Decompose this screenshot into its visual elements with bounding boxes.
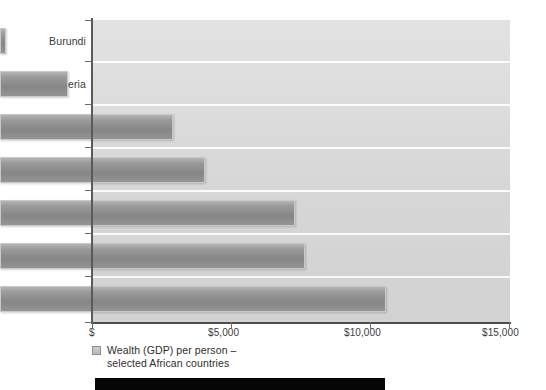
band-separator [92,233,510,235]
band-separator [92,276,510,278]
chart-figure: Burundi Nigeria Egypt Algeria South Afri… [0,0,546,390]
y-axis-tick [85,61,92,62]
x-axis-tick [509,322,510,329]
bar-nigeria[interactable] [0,71,68,97]
x-axis-tick [92,322,93,329]
y-axis-tick [85,20,92,21]
bar-south-africa[interactable] [0,200,295,226]
x-axis-line [91,322,511,324]
y-axis-tick [85,147,92,148]
band-separator [92,147,510,149]
bar-libya[interactable] [0,286,386,312]
x-axis-tick [231,322,232,329]
x-axis-tick-label: $5,000 [208,327,239,338]
chart-legend: Wealth (GDP) per person – selected Afric… [92,344,237,370]
y-axis-line [91,18,93,324]
bottom-caption-bar [95,378,385,390]
category-label: Burundi [2,35,86,47]
y-axis-tick [85,322,92,323]
x-axis-tick-label: $15,000 [482,327,519,338]
legend-label: Wealth (GDP) per person – selected Afric… [107,344,237,370]
bar-world-average[interactable] [0,243,305,269]
y-axis-tick [85,190,92,191]
band-separator [92,190,510,192]
y-axis-tick [85,233,92,234]
legend-swatch-icon [92,346,101,355]
bar-burundi[interactable] [0,28,6,54]
x-axis-tick [370,322,371,329]
y-axis-tick [85,104,92,105]
y-axis-tick [85,276,92,277]
band-separator [92,61,510,63]
bar-egypt[interactable] [0,114,173,140]
x-axis-tick-label: $10,000 [344,327,381,338]
bar-algeria[interactable] [0,157,205,183]
band-separator [92,104,510,106]
